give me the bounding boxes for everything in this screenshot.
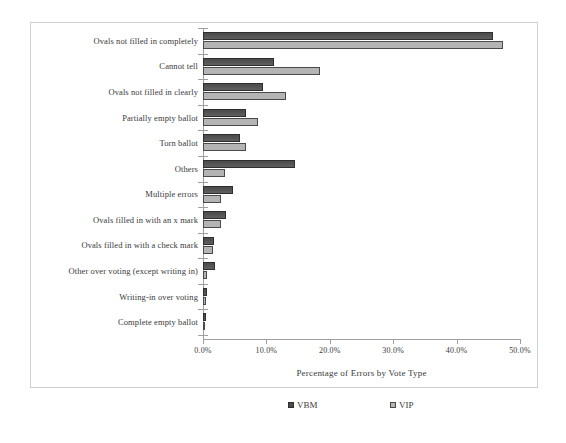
bar-vbm (203, 109, 246, 117)
value-axis-tick (203, 339, 204, 344)
bar-vip (203, 169, 225, 177)
bar-vip (203, 118, 258, 126)
x-axis-title: Percentage of Errors by Vote Type (203, 368, 520, 378)
bar-vip (203, 322, 205, 330)
category-label: Other over voting (except writing in) (30, 266, 198, 276)
bar-vbm (203, 288, 207, 296)
category-label: Ovals not filled in completely (30, 36, 198, 46)
value-axis-tick-label: 30.0% (373, 346, 413, 355)
category-label-column: Ovals not filled in completelyCannot tel… (30, 28, 198, 335)
category-axis-tick (198, 207, 208, 208)
bar-vip (203, 246, 213, 254)
category-axis-tick (198, 79, 208, 80)
legend-item-vip[interactable]: VIP (390, 399, 414, 410)
category-axis-tick (198, 335, 208, 336)
category-axis-tick (198, 233, 208, 234)
value-axis-tick (266, 339, 267, 344)
bar-vip (203, 67, 320, 75)
value-axis-tick (520, 339, 521, 344)
bar-vbm (203, 211, 226, 219)
category-axis-tick (198, 54, 208, 55)
value-axis-tick (457, 339, 458, 344)
bar-vip (203, 297, 206, 305)
bar-vip (203, 41, 503, 49)
bar-vbm (203, 134, 240, 142)
category-axis-tick (198, 105, 208, 106)
legend-label: VBM (297, 400, 318, 410)
value-axis-tick-label: 40.0% (437, 346, 477, 355)
category-label: Partially empty ballot (30, 113, 198, 123)
legend-item-vbm[interactable]: VBM (288, 399, 318, 410)
bar-vbm (203, 186, 233, 194)
bar-vip (203, 92, 286, 100)
category-label: Ovals filled in with a check mark (30, 240, 198, 250)
bar-vbm (203, 160, 295, 168)
value-axis-tick-label: 10.0% (246, 346, 286, 355)
category-label: Cannot tell (30, 61, 198, 71)
category-label: Writing-in over voting (30, 292, 198, 302)
value-axis-tick-label: 20.0% (310, 346, 350, 355)
category-axis-tick (198, 28, 208, 29)
legend-swatch-icon (390, 402, 396, 408)
plot-area (203, 28, 520, 335)
category-label: Torn ballot (30, 138, 198, 148)
bar-vbm (203, 237, 214, 245)
bar-vip (203, 271, 207, 279)
bar-vip (203, 195, 221, 203)
chart-legend: VBMVIP (30, 399, 538, 415)
value-axis-tick (393, 339, 394, 344)
value-axis-line (203, 339, 520, 340)
category-label: Ovals filled in with an x mark (30, 215, 198, 225)
category-axis-tick (198, 284, 208, 285)
category-axis-tick (198, 130, 208, 131)
bar-vbm (203, 32, 493, 40)
value-axis-tick-label: 50.0% (500, 346, 540, 355)
value-axis-tick (330, 339, 331, 344)
category-label: Multiple errors (30, 189, 198, 199)
bar-vbm (203, 313, 206, 321)
bar-vip (203, 143, 246, 151)
legend-label: VIP (399, 400, 414, 410)
legend-swatch-icon (288, 402, 294, 408)
category-label: Complete empty ballot (30, 317, 198, 327)
bar-vbm (203, 83, 263, 91)
category-label: Ovals not filled in clearly (30, 87, 198, 97)
category-axis-tick (198, 309, 208, 310)
category-label: Others (30, 164, 198, 174)
category-axis-tick (198, 182, 208, 183)
clipped-caption-bleed (0, 0, 566, 8)
bar-vbm (203, 262, 215, 270)
bar-vip (203, 220, 221, 228)
value-axis-tick-label: 0.0% (183, 346, 223, 355)
bar-vbm (203, 58, 274, 66)
category-axis-tick (198, 156, 208, 157)
category-axis-tick (198, 258, 208, 259)
